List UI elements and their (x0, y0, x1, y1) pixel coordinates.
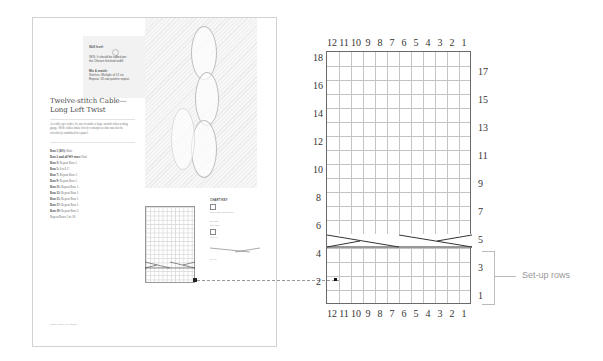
row-instructions: Row 1 (RS): Knit. Row 2 and all WS rows:… (50, 148, 140, 220)
repeat-text: Repeat: 18-row pattern repeat (89, 77, 129, 81)
divider (50, 119, 135, 120)
intro-paragraph: As cables get wider, be sure to make a l… (50, 122, 135, 135)
skill-level-label: Skill level: (89, 45, 104, 49)
small-chart-grid (145, 206, 195, 283)
chart-key-item: 6/6 LC (210, 258, 270, 261)
row-instruction: Repeat Rows 3 to 18. (50, 214, 140, 220)
chart-key-item: 6-st LC (210, 236, 270, 239)
setup-rows-bracket (482, 251, 495, 305)
small-chart (145, 206, 195, 283)
chart-grid (326, 51, 471, 304)
enlarged-chart (326, 51, 471, 304)
cable-cross-symbol (327, 234, 472, 249)
book-page: Skill level: SKS: It should be added per… (32, 17, 277, 347)
page-footer: OCCASIONAL CABLES (50, 323, 77, 326)
pattern-title: Twelve-stitch Cable— Long Left Twist (50, 97, 145, 115)
skill-line-2: the Chosen finished width (89, 59, 123, 63)
cable-cross-key-icon (210, 247, 260, 253)
title-line-1: Twelve-stitch Cable— (50, 97, 145, 106)
setup-rows-connector (494, 276, 516, 277)
small-cable-cross (145, 261, 195, 269)
chart-key-item: RS: knit (210, 220, 270, 223)
knit-symbol-icon (210, 204, 216, 210)
chart-key-heading: CHART KEY (210, 198, 270, 202)
skill-box: Skill level: SKS: It should be added per… (83, 36, 148, 98)
setup-rows-label: Set-up rows (522, 270, 570, 280)
chart-key: CHART KEY knit on RS, purl on WS RS: kni… (210, 198, 270, 261)
cable-swatch-photo (145, 18, 257, 188)
divider (50, 142, 135, 143)
cable-symbol-icon (210, 229, 216, 235)
title-line-2: Long Left Twist (50, 106, 145, 115)
chart-key-item: knit on RS, purl on WS (210, 211, 270, 214)
chart-key-item: WS: purl (210, 224, 270, 227)
